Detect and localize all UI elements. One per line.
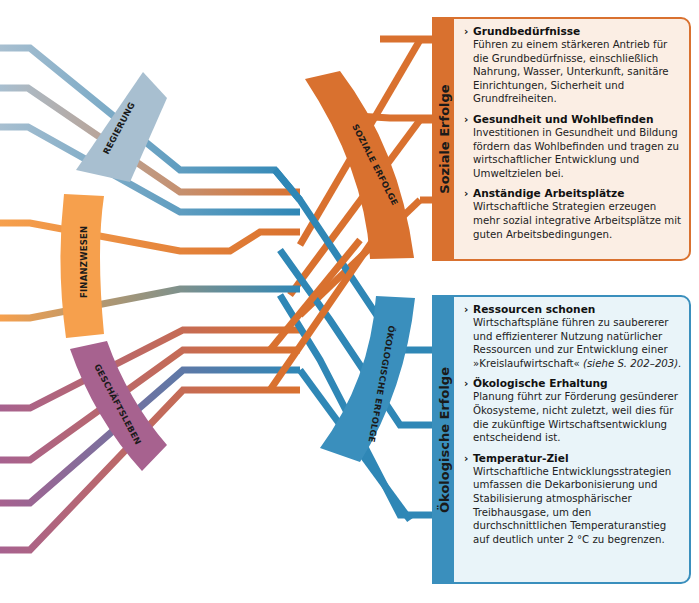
item-body: Wirtschaftspläne führen zu saubererer un… — [464, 316, 683, 370]
list-item: ›Gesundheit und Wohlbefinden Investition… — [464, 113, 683, 180]
list-item: ›Grundbedürfnisse Führen zu einem stärke… — [464, 25, 683, 106]
eco-panel-strip: Ökologische Erfolge — [434, 297, 454, 582]
item-title: Ökologische Erhaltung — [473, 377, 608, 389]
social-panel-heading: Soziale Erfolge — [437, 84, 452, 193]
ecological-outcomes-panel: Ökologische Erfolge ›Ressourcen schonen … — [432, 295, 691, 584]
band-label-finanzwesen: FINANZWESEN — [79, 226, 89, 298]
item-title: Ressourcen schonen — [473, 303, 595, 315]
item-body: Planung führt zur Förderung gesünderer Ö… — [464, 390, 683, 444]
item-title: Grundbedürfnisse — [473, 25, 580, 37]
chevron-right-icon: › — [464, 377, 473, 390]
chevron-right-icon: › — [464, 113, 473, 126]
chevron-right-icon: › — [464, 452, 473, 465]
list-item: ›Ökologische Erhaltung Planung führt zur… — [464, 377, 683, 444]
page-reference: (siehe S. 202–203). — [583, 358, 681, 369]
social-outcomes-panel: Soziale Erfolge ›Grundbedürfnisse Führen… — [432, 17, 691, 261]
item-body: Wirtschaftliche Strategien erzeugen mehr… — [464, 200, 683, 241]
item-title: Gesundheit und Wohlbefinden — [473, 113, 654, 125]
chevron-right-icon: › — [464, 25, 473, 38]
list-item: ›Anständige Arbeitsplätze Wirtschaftlich… — [464, 187, 683, 241]
chevron-right-icon: › — [464, 303, 473, 316]
item-body: Führen zu einem stärkeren Antrieb für di… — [464, 38, 683, 106]
item-body: Investitionen in Gesundheit und Bildung … — [464, 126, 683, 180]
source-band-finanzwesen: FINANZWESEN — [60, 194, 104, 338]
eco-panel-heading: Ökologische Erfolge — [437, 367, 452, 513]
list-item: ›Ressourcen schonen Wirtschaftspläne füh… — [464, 303, 683, 370]
chevron-right-icon: › — [464, 187, 473, 200]
item-body: Wirtschaftliche Entwicklungsstrategien u… — [464, 465, 683, 547]
list-item: ›Temperatur-Ziel Wirtschaftliche Entwick… — [464, 452, 683, 547]
item-title: Anständige Arbeitsplätze — [473, 187, 624, 199]
item-title: Temperatur-Ziel — [473, 452, 569, 464]
social-panel-strip: Soziale Erfolge — [434, 19, 454, 259]
